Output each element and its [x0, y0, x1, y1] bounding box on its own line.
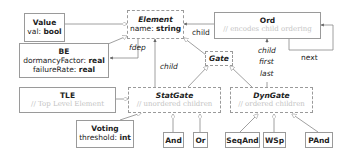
class-dyngate-name: DynGate — [231, 91, 312, 100]
class-seqand[interactable]: SeqAnd — [225, 132, 260, 148]
label-child-ord: child — [192, 28, 210, 37]
class-pand[interactable]: PAnd — [305, 132, 333, 148]
class-tle-name: TLE — [20, 91, 115, 100]
class-dyngate[interactable]: DynGate // ordered children — [230, 87, 313, 113]
class-tle[interactable]: TLE // Top Level Element — [19, 87, 116, 113]
class-be-name: BE — [20, 47, 108, 56]
class-gate[interactable]: Gate — [205, 51, 233, 66]
class-tle-comment: // Top Level Element — [20, 100, 115, 109]
label-child-statgate: child — [160, 62, 178, 71]
class-statgate[interactable]: StatGate // unordered children — [128, 87, 221, 113]
label-dyn-child: child — [258, 46, 276, 55]
label-dyn-first: first — [259, 57, 274, 66]
class-be-attr-dormancy: dormancyFactor: real — [20, 56, 108, 65]
class-statgate-name: StatGate — [129, 91, 220, 100]
class-ord-comment: // encodes child ordering — [215, 25, 320, 34]
class-or[interactable]: Or — [193, 132, 208, 148]
class-gate-name: Gate — [206, 54, 232, 63]
class-and-name: And — [164, 136, 183, 145]
class-ord-name: Ord — [215, 16, 320, 25]
class-ord[interactable]: Ord // encodes child ordering — [214, 12, 321, 39]
class-voting-name: Voting — [77, 124, 133, 133]
class-element-name: Element — [128, 15, 183, 24]
class-wsp-name: WSp — [264, 136, 285, 145]
class-be-attr-failure: failureRate: real — [20, 65, 108, 74]
class-statgate-comment: // unordered children — [129, 100, 220, 109]
label-next: next — [301, 53, 318, 62]
class-dyngate-comment: // ordered children — [231, 100, 312, 109]
class-voting[interactable]: Voting threshold: int — [76, 120, 134, 148]
class-be[interactable]: BE dormancyFactor: real failureRate: rea… — [19, 43, 109, 78]
class-value-attr: val: bool — [27, 27, 61, 36]
class-or-name: Or — [194, 136, 207, 145]
class-voting-attr: threshold: int — [79, 133, 131, 142]
class-seqand-name: SeqAnd — [226, 136, 259, 145]
class-pand-name: PAnd — [306, 136, 332, 145]
class-and[interactable]: And — [163, 132, 184, 148]
class-wsp[interactable]: WSp — [263, 132, 286, 148]
class-value[interactable]: Value val: bool — [24, 13, 65, 42]
class-element-attr: name: string — [130, 24, 181, 33]
class-element[interactable]: Element name: string — [127, 10, 184, 39]
label-dyn-last: last — [260, 69, 274, 78]
label-fdep: fdep — [129, 43, 146, 52]
class-value-name: Value — [25, 18, 64, 27]
